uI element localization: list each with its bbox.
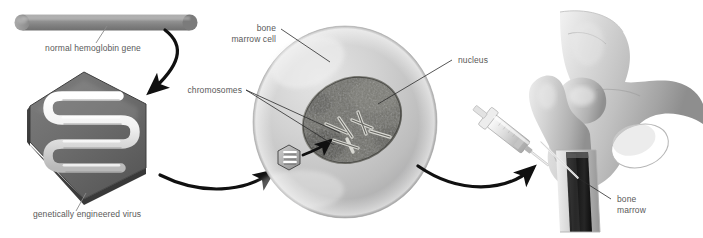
label-normal-hemoglobin-gene: normal hemoglobin gene <box>10 43 176 54</box>
label-bone-marrow-line1: bone <box>617 194 687 205</box>
genetically-engineered-virus <box>27 72 146 205</box>
diagram-canvas: normal hemoglobin gene genetically engin… <box>0 0 703 238</box>
arrow-cell-to-bone <box>418 166 533 187</box>
bone-marrow-cell <box>253 26 437 218</box>
arrow-virus-to-cell <box>160 172 272 189</box>
label-nucleus: nucleus <box>458 55 528 66</box>
label-genetically-engineered-virus: genetically engineered virus <box>2 209 172 220</box>
label-bone-marrow-cell-line2: marrow cell <box>190 34 276 45</box>
gene-therapy-illustration <box>0 0 703 238</box>
label-chromosomes: chromosomes <box>160 85 242 96</box>
arrow-gene-to-virus <box>150 30 177 92</box>
label-bone-marrow-cell-line1: bone <box>190 23 276 34</box>
virus-particle-in-cell <box>278 145 300 170</box>
label-bone-marrow-line2: marrow <box>617 205 687 216</box>
